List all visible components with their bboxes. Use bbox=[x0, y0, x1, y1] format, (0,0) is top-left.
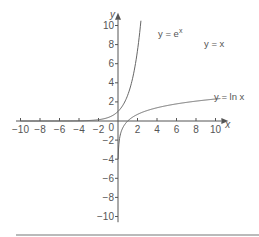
label-y-equals-x: y = x bbox=[204, 38, 225, 49]
y-axis-label: y bbox=[109, 9, 116, 20]
curve-ln bbox=[118, 99, 220, 160]
y-axis-arrow-icon bbox=[115, 13, 121, 20]
y-tick-label: −2 bbox=[103, 135, 115, 146]
function-graph: −10−8−6−4−2246810108642−2−4−6−8−100xyy =… bbox=[0, 0, 259, 237]
x-tick-label: −10 bbox=[12, 124, 29, 135]
x-tick-label: −6 bbox=[54, 124, 66, 135]
x-tick-label: 10 bbox=[210, 124, 222, 135]
label-exp: y = ex bbox=[158, 27, 183, 39]
x-tick-label: 8 bbox=[193, 124, 199, 135]
x-tick-label: −8 bbox=[34, 124, 46, 135]
y-tick-label: 4 bbox=[108, 77, 114, 88]
y-tick-label: 8 bbox=[108, 39, 114, 50]
y-tick-label: −8 bbox=[103, 192, 115, 203]
x-tick-label: 6 bbox=[174, 124, 180, 135]
y-tick-label: 6 bbox=[108, 58, 114, 69]
curves bbox=[21, 21, 221, 159]
y-tick-label: −6 bbox=[103, 173, 115, 184]
x-tick-label: 2 bbox=[135, 124, 141, 135]
x-tick-label: −4 bbox=[73, 124, 85, 135]
y-tick-label: −4 bbox=[103, 154, 115, 165]
x-tick-label: −2 bbox=[93, 124, 105, 135]
y-tick-label: −10 bbox=[97, 211, 114, 222]
curve-exp bbox=[21, 21, 141, 121]
label-ln: y = ln x bbox=[214, 91, 245, 102]
x-axis-label: x bbox=[224, 119, 231, 130]
x-tick-label: 4 bbox=[154, 124, 160, 135]
y-tick-label: 10 bbox=[103, 20, 115, 31]
origin-label: 0 bbox=[108, 122, 114, 133]
y-tick-label: 2 bbox=[108, 96, 114, 107]
axes bbox=[16, 13, 228, 222]
labels: −10−8−6−4−2246810108642−2−4−6−8−100xyy =… bbox=[12, 9, 245, 222]
